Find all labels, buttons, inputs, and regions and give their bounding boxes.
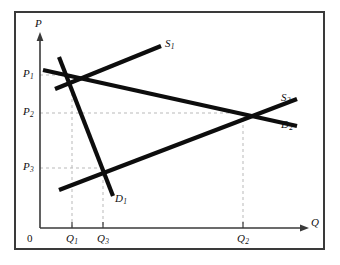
curve-label-d2: D2 <box>281 119 293 130</box>
curve-label-d2-base: D <box>281 118 289 130</box>
curve-label-d2-sub: 2 <box>289 123 293 132</box>
quantity-tick-q2-sub: 2 <box>245 237 249 246</box>
y-axis-label: P <box>35 18 42 29</box>
quantity-tick-q1: Q1 <box>66 233 78 244</box>
quantity-tick-q2: Q2 <box>237 233 249 244</box>
curve-label-s2: S2 <box>281 92 290 103</box>
curve-label-s2-sub: 2 <box>287 96 291 105</box>
price-tick-p3-sub: 3 <box>30 165 34 174</box>
price-tick-p3-base: P <box>23 160 30 172</box>
x-axis-label: Q <box>311 217 319 228</box>
curve-label-s1-base: S <box>165 37 171 49</box>
curve-label-s1-sub: 1 <box>171 42 175 51</box>
origin-label: 0 <box>27 233 33 244</box>
price-tick-p2-base: P <box>23 105 30 117</box>
quantity-tick-q1-sub: 1 <box>74 237 78 246</box>
price-tick-p2-sub: 2 <box>30 110 34 119</box>
curve-label-d1: D1 <box>115 193 127 204</box>
price-tick-p1-base: P <box>23 67 30 79</box>
curve-label-s1: S1 <box>165 38 174 49</box>
price-tick-p2: P2 <box>23 106 33 117</box>
quantity-tick-q3-base: Q <box>97 232 105 244</box>
price-tick-p1: P1 <box>23 68 33 79</box>
supply-demand-figure: P Q 0 P1 P2 P3 Q1 Q3 Q2 S1 S2 D1 D2 <box>0 0 340 265</box>
curve-label-d1-sub: 1 <box>123 197 127 206</box>
quantity-tick-q2-base: Q <box>237 232 245 244</box>
quantity-tick-q3: Q3 <box>97 233 109 244</box>
quantity-tick-q1-base: Q <box>66 232 74 244</box>
price-tick-p3: P3 <box>23 161 33 172</box>
curve-label-d1-base: D <box>115 192 123 204</box>
curve-label-s2-base: S <box>281 91 287 103</box>
quantity-tick-q3-sub: 3 <box>105 237 109 246</box>
price-tick-p1-sub: 1 <box>30 72 34 81</box>
